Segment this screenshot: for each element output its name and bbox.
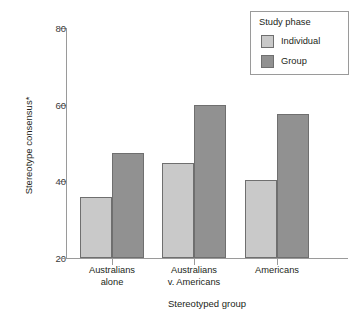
y-axis-title: Stereotype consensus* bbox=[23, 56, 34, 236]
bar-2-group bbox=[277, 114, 309, 258]
legend: Study phase Individual Group bbox=[250, 11, 349, 75]
legend-swatch-individual-icon bbox=[261, 35, 274, 48]
category-label-0-line1: Australians bbox=[89, 265, 135, 275]
bar-1-group bbox=[194, 105, 226, 258]
bar-0-individual bbox=[80, 197, 112, 258]
category-label-1-line2: v. Americans bbox=[139, 277, 249, 289]
legend-label-individual: Individual bbox=[281, 35, 320, 48]
legend-title: Study phase bbox=[259, 17, 311, 27]
legend-label-group: Group bbox=[281, 55, 307, 68]
x-axis-title: Stereotyped group bbox=[66, 298, 348, 309]
category-label-2: Americans bbox=[222, 265, 332, 277]
legend-swatch-group-icon bbox=[261, 55, 274, 68]
bar-chart: 80 60 40 20 Australians alone Australian… bbox=[0, 0, 357, 322]
bar-0-group bbox=[112, 153, 144, 258]
bar-1-individual bbox=[162, 163, 194, 258]
category-label-1-line1: Australians bbox=[171, 265, 217, 275]
bar-2-individual bbox=[245, 180, 277, 258]
category-label-2-line1: Americans bbox=[255, 265, 299, 275]
